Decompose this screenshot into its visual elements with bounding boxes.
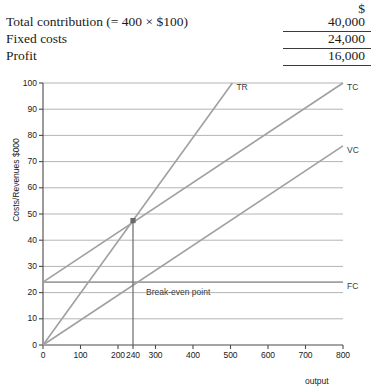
series-label-fc: FC <box>347 281 358 291</box>
y-tick-label: 60 <box>11 183 37 192</box>
statement-row-profit: Profit 16,000 <box>6 48 371 65</box>
series-label-tc: TC <box>347 82 358 92</box>
row-label: Total contribution (= 400 × $100) <box>6 14 188 30</box>
x-tick-label: 800 <box>328 351 358 360</box>
row-value: 16,000 <box>275 48 365 64</box>
row-label: Fixed costs <box>6 31 67 47</box>
y-tick-label: 40 <box>11 236 37 245</box>
contribution-statement: $ Total contribution (= 400 × $100) 40,0… <box>0 0 377 70</box>
statement-row-total-contribution: Total contribution (= 400 × $100) 40,000 <box>6 14 371 31</box>
y-tick-label: 70 <box>11 157 37 166</box>
x-axis-title: output <box>305 376 329 386</box>
x-tick-label: 600 <box>253 351 283 360</box>
series-line-tc <box>43 83 343 282</box>
row-value: 40,000 <box>275 14 365 30</box>
row-value: 24,000 <box>275 31 365 47</box>
statement-row-fixed-costs: Fixed costs 24,000 <box>6 31 371 48</box>
y-tick-label: 50 <box>11 210 37 219</box>
x-tick-label: 0 <box>28 351 58 360</box>
x-tick-label: 100 <box>66 351 96 360</box>
break-even-marker <box>130 218 135 223</box>
break-even-point-label: Break-even point <box>146 287 210 297</box>
plot-area: 0102030405060708090100010020024030040050… <box>43 83 343 345</box>
x-tick-label: 300 <box>141 351 171 360</box>
plot-svg <box>43 83 343 345</box>
y-tick-label: 90 <box>11 105 37 114</box>
break-even-chart: Costs/Revenues $000 output 0102030405060… <box>0 70 377 390</box>
series-label-vc: VC <box>347 145 359 155</box>
y-tick-label: 10 <box>11 314 37 323</box>
x-tick-label: 400 <box>178 351 208 360</box>
x-tick-label: 700 <box>291 351 321 360</box>
y-tick-label: 0 <box>11 341 37 350</box>
row-label: Profit <box>6 48 37 64</box>
y-tick-label: 100 <box>11 79 37 88</box>
y-tick-label: 20 <box>11 288 37 297</box>
x-tick-label: 500 <box>216 351 246 360</box>
y-tick-label: 80 <box>11 131 37 140</box>
y-tick-label: 30 <box>11 262 37 271</box>
series-label-tr: TR <box>236 82 247 92</box>
series-line-vc <box>43 146 343 345</box>
statement-divider-bottom <box>283 65 371 66</box>
